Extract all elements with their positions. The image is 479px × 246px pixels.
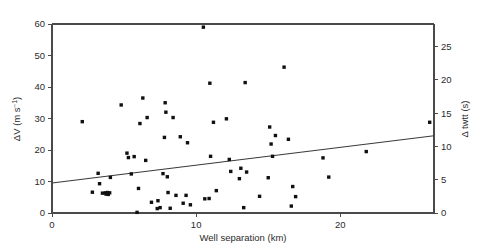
y2-axis-ticks: 0510152025 — [434, 41, 452, 218]
data-point — [291, 185, 294, 188]
data-point — [258, 195, 261, 198]
data-point — [203, 197, 206, 200]
x-tick-label: 20 — [335, 219, 346, 230]
x-tick-label: 10 — [191, 219, 202, 230]
data-point — [166, 191, 169, 194]
y-tick-label: 0 — [40, 207, 45, 218]
data-point — [138, 122, 141, 125]
data-point — [271, 155, 274, 158]
x-axis-title: Well separation (km) — [200, 232, 287, 243]
data-point — [171, 116, 174, 119]
data-point — [161, 172, 164, 175]
data-point — [156, 199, 159, 202]
data-point — [189, 203, 192, 206]
data-point — [169, 207, 172, 210]
data-point — [243, 81, 246, 84]
data-point — [184, 194, 187, 197]
y-axis-title: ΔV (m s−1) — [11, 97, 22, 141]
data-point — [212, 121, 215, 124]
y-axis-title-group: ΔV (m s−1) — [11, 97, 22, 141]
data-point — [145, 116, 148, 119]
data-point — [144, 159, 147, 162]
data-point — [98, 182, 101, 185]
y2-tick-label: 5 — [441, 174, 446, 185]
scatter-chart-figure: 0102030405060 0510152025 01020 Well sepa… — [0, 0, 479, 246]
data-point — [166, 175, 169, 178]
data-point — [186, 141, 189, 144]
data-point — [268, 125, 271, 128]
y-tick-label: 20 — [34, 144, 45, 155]
y-tick-label: 10 — [34, 176, 45, 187]
data-point — [242, 206, 245, 209]
plot-canvas: 0102030405060 0510152025 01020 Well sepa… — [0, 0, 479, 246]
data-point — [267, 176, 270, 179]
y-axis-title-base: ΔV (m s — [11, 107, 22, 141]
y-axis-title-close: ) — [11, 97, 22, 100]
y-tick-label: 40 — [34, 81, 45, 92]
data-point — [132, 155, 135, 158]
data-point — [163, 101, 166, 104]
data-point — [245, 170, 248, 173]
data-point — [164, 111, 167, 114]
y2-axis-title: Δ twtt (s) — [459, 101, 470, 138]
data-point — [96, 172, 99, 175]
data-point — [127, 156, 130, 159]
data-point — [174, 194, 177, 197]
y2-tick-label: 0 — [441, 207, 446, 218]
data-points-layer — [81, 25, 432, 214]
data-point — [365, 150, 368, 153]
data-point — [141, 96, 144, 99]
data-point — [287, 138, 290, 141]
data-point — [327, 175, 330, 178]
y2-tick-label: 25 — [441, 41, 452, 52]
data-point — [209, 155, 212, 158]
data-point — [119, 103, 122, 106]
data-point — [290, 204, 293, 207]
y-tick-label: 30 — [34, 113, 45, 124]
y2-axis-title-group: Δ twtt (s) — [459, 101, 470, 138]
x-tick-label: 0 — [49, 219, 54, 230]
data-point — [109, 176, 112, 179]
data-point — [137, 187, 140, 190]
y2-tick-label: 20 — [441, 74, 452, 85]
plot-frame — [52, 24, 434, 213]
data-point — [229, 170, 232, 173]
data-point — [274, 134, 277, 137]
data-point — [179, 135, 182, 138]
data-point — [428, 121, 431, 124]
data-point — [158, 206, 161, 209]
data-point — [269, 142, 272, 145]
data-point — [294, 195, 297, 198]
data-point — [108, 191, 111, 194]
data-point — [125, 151, 128, 154]
y2-tick-label: 10 — [441, 141, 452, 152]
data-point — [150, 201, 153, 204]
data-point — [225, 117, 228, 120]
data-point — [181, 202, 184, 205]
data-point — [215, 189, 218, 192]
data-point — [163, 136, 166, 139]
y2-tick-label: 15 — [441, 108, 452, 119]
data-point — [228, 158, 231, 161]
y-tick-label: 50 — [34, 50, 45, 61]
data-point — [130, 172, 133, 175]
data-point — [135, 211, 138, 214]
data-point — [207, 197, 210, 200]
y-axis-ticks: 0102030405060 — [34, 18, 52, 218]
x-axis-ticks: 01020 — [49, 213, 345, 230]
y-tick-label: 60 — [34, 18, 45, 29]
data-point — [208, 82, 211, 85]
data-point — [239, 167, 242, 170]
data-point — [91, 191, 94, 194]
data-point — [238, 177, 241, 180]
data-point — [321, 156, 324, 159]
data-point — [202, 25, 205, 28]
data-point — [282, 65, 285, 68]
data-point — [81, 120, 84, 123]
